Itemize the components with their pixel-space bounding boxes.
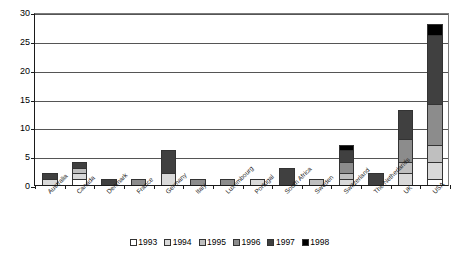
y-axis-tick-label: 30 xyxy=(20,8,30,18)
legend-label: 1994 xyxy=(173,238,192,247)
legend-label: 1993 xyxy=(138,238,157,247)
legend-item-1995[interactable]: 1995 xyxy=(199,238,226,247)
bar-segment-1996[interactable] xyxy=(339,162,354,174)
legend-item-1997[interactable]: 1997 xyxy=(267,238,294,247)
legend-swatch-1997 xyxy=(267,239,274,246)
legend-item-1993[interactable]: 1993 xyxy=(130,238,157,247)
legend-swatch-1995 xyxy=(199,239,206,246)
bars-layer xyxy=(35,14,448,185)
bar-stack[interactable] xyxy=(398,110,413,185)
y-axis-tick-label: 5 xyxy=(25,152,30,162)
bar-segment-1997[interactable] xyxy=(398,110,413,139)
plot-area xyxy=(34,13,449,186)
x-axis-labels: AustraliaCanadaDenmarkFranceGermanyItaly… xyxy=(0,188,459,244)
legend-item-1994[interactable]: 1994 xyxy=(164,238,191,247)
legend-label: 1998 xyxy=(310,238,329,247)
stacked-bar-chart: 051015202530 AustraliaCanadaDenmarkFranc… xyxy=(0,0,459,260)
legend-swatch-1994 xyxy=(164,239,171,246)
bar-segment-1997[interactable] xyxy=(339,150,354,162)
y-axis-tick-label: 10 xyxy=(20,123,30,133)
bar-segment-1994[interactable] xyxy=(398,173,413,185)
legend-item-1996[interactable]: 1996 xyxy=(233,238,260,247)
bar-segment-1996[interactable] xyxy=(427,104,442,144)
bar-stack[interactable] xyxy=(427,24,442,185)
bar-segment-1994[interactable] xyxy=(427,162,442,179)
bar-segment-1997[interactable] xyxy=(427,35,442,104)
legend-label: 1995 xyxy=(207,238,226,247)
legend-swatch-1996 xyxy=(233,239,240,246)
bar-segment-1998[interactable] xyxy=(427,24,442,36)
legend-label: 1996 xyxy=(242,238,261,247)
y-axis-tick-label: 15 xyxy=(20,95,30,105)
y-axis-tick-label: 20 xyxy=(20,66,30,76)
y-axis-labels: 051015202530 xyxy=(12,13,30,186)
bar-segment-1997[interactable] xyxy=(161,150,176,173)
legend-swatch-1998 xyxy=(302,239,309,246)
legend-item-1998[interactable]: 1998 xyxy=(302,238,329,247)
chart-legend: 199319941995199619971998 xyxy=(0,238,459,247)
y-axis-tick-label: 25 xyxy=(20,37,30,47)
legend-label: 1997 xyxy=(276,238,295,247)
bar-segment-1995[interactable] xyxy=(427,145,442,162)
legend-swatch-1993 xyxy=(130,239,137,246)
